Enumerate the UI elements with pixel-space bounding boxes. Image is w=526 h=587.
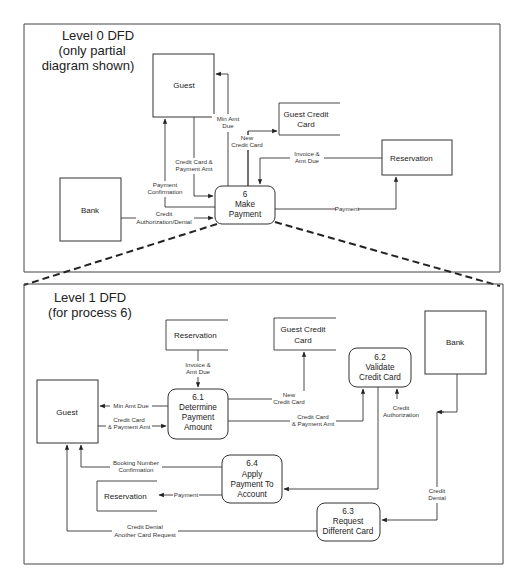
svg-text:Credit Card &: Credit Card & [175,158,213,165]
svg-text:Min Amt: Min Amt [217,115,240,122]
svg-text:Credit Denial: Credit Denial [127,523,163,530]
level0-bank-label: Bank [81,206,100,215]
svg-text:Credit Card: Credit Card [273,398,305,405]
dfd-diagram: Level 0 DFD (only partial diagram shown)… [0,0,526,587]
level1-bank-label: Bank [446,338,465,347]
svg-text:Confirmation: Confirmation [118,466,154,473]
level0-store-label-1: Guest Credit [284,110,330,119]
svg-text:Credit: Credit [393,404,410,411]
level0-process-6-name-2: Payment [229,210,262,219]
svg-text:New: New [283,391,296,398]
level1-flow-credit-denial [382,412,437,520]
svg-text:Payment: Payment [335,205,360,212]
svg-text:Min Amt Due: Min Amt Due [113,402,149,409]
svg-text:Guest Credit: Guest Credit [281,325,327,334]
svg-text:6.2: 6.2 [374,353,386,362]
svg-text:Request: Request [333,517,364,526]
svg-text:Payment: Payment [174,491,199,498]
svg-text:Credit: Credit [156,210,173,217]
svg-text:Payment: Payment [182,413,215,422]
level1-guest-credit-card-store [274,318,336,350]
svg-text:Payment To: Payment To [230,480,274,489]
level1-flow-bank-out [440,374,457,412]
svg-text:Amt Due: Amt Due [295,157,320,164]
svg-text:Denial: Denial [428,494,446,501]
level0-process-6-number: 6 [243,190,248,199]
svg-text:6.3: 6.3 [342,507,354,516]
svg-text:Invoice &: Invoice & [294,150,320,157]
svg-text:Payment: Payment [153,181,178,188]
svg-text:Another Card Request: Another Card Request [114,531,176,538]
level1-title-1: Level 1 DFD [54,290,126,305]
svg-text:Credit: Credit [429,487,446,494]
svg-text:Card: Card [294,336,311,345]
svg-text:Determine: Determine [179,403,217,412]
level1-reservation-bottom-label: Reservation [104,492,147,501]
svg-text:Due: Due [222,122,234,129]
level0-flow-credit-card-payment-amt [194,117,213,196]
svg-text:6.1: 6.1 [192,393,204,402]
svg-text:New: New [241,134,254,141]
svg-text:Different Card: Different Card [323,527,374,536]
svg-text:Invoice &: Invoice & [185,361,211,368]
level0-title-3: diagram shown) [42,58,135,73]
level0-store-label-2: Card [297,120,314,129]
svg-text:Amount: Amount [184,423,213,432]
svg-text:& Payment Amt: & Payment Amt [292,420,335,427]
svg-text:Booking Number: Booking Number [113,459,159,466]
svg-text:6.4: 6.4 [246,459,258,468]
svg-text:Credit Card: Credit Card [359,373,401,382]
svg-text:Credit Card: Credit Card [113,416,145,423]
expansion-line-right [275,222,500,286]
svg-text:Account: Account [237,490,267,499]
level0-title-2: (only partial [58,43,125,58]
svg-text:& Payment Amt: & Payment Amt [108,423,151,430]
svg-text:Credit Card: Credit Card [231,141,263,148]
level0-process-6-name-1: Make [235,200,255,209]
level0-guest-credit-card-store [279,103,340,135]
level0-title-1: Level 0 DFD [62,28,134,43]
svg-text:Confirmation: Confirmation [147,188,183,195]
level1-title-2: (for process 6) [48,305,132,320]
svg-text:Authorization/Denial: Authorization/Denial [136,218,191,225]
level1-reservation-top-label: Reservation [174,331,217,340]
level1-guest-label: Guest [56,408,78,417]
svg-text:Validate: Validate [366,363,395,372]
svg-text:Apply: Apply [242,470,263,479]
svg-text:Authorization: Authorization [383,411,420,418]
level0-reservation-label: Reservation [390,154,433,163]
level0-guest-label: Guest [173,81,195,90]
svg-text:Payment Amt: Payment Amt [176,165,213,172]
svg-text:Credit Card: Credit Card [297,413,329,420]
svg-text:Amt Due: Amt Due [186,368,211,375]
